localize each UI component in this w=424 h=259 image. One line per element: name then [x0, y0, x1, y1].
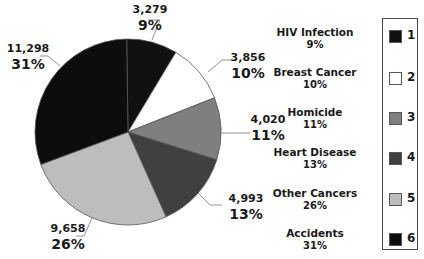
legend-label-hiv: HIV Infection9%: [260, 26, 370, 52]
legend-label-homicide: Homicide11%: [260, 106, 370, 132]
legend-swatch-4: [389, 152, 402, 165]
legend-swatch-2: [389, 72, 402, 85]
slice-label-other-cancers: 9,658 26%: [40, 223, 96, 252]
legend-number-2: 2: [407, 70, 415, 84]
legend-swatch-5: [389, 193, 402, 206]
legend-swatch-6: [389, 233, 402, 246]
legend-label-other-cancers: Other Cancers26%: [260, 187, 370, 213]
slice-label-hiv: 3,279 9%: [120, 4, 180, 33]
legend-number-5: 5: [407, 191, 415, 205]
legend-number-6: 6: [407, 231, 415, 245]
legend-swatch-3: [389, 112, 402, 125]
legend-label-accidents: Accidents31%: [260, 227, 370, 253]
legend-label-breast-cancer: Breast Cancer10%: [260, 66, 370, 92]
legend-number-4: 4: [407, 150, 415, 164]
legend-label-heart-disease: Heart Disease13%: [260, 146, 370, 172]
legend-box: 1 2 3 4 5 6: [382, 18, 418, 250]
slice-label-accidents: 11,298 31%: [0, 43, 56, 72]
legend-number-1: 1: [407, 28, 415, 42]
legend-swatch-1: [389, 30, 402, 43]
legend-number-3: 3: [407, 110, 415, 124]
